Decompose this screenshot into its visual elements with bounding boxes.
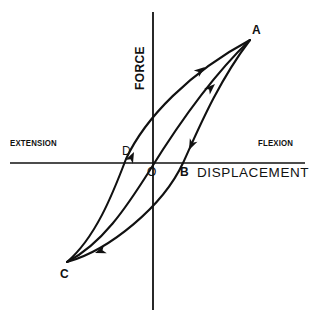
x-axis-title: DISPLACEMENT: [197, 166, 309, 180]
point-label-a: A: [252, 24, 261, 36]
force-displacement-diagram: FORCE DISPLACEMENT EXTENSION FLEXION A B…: [0, 0, 312, 322]
point-label-c: C: [60, 268, 69, 280]
x-axis-right-label: FLEXION: [258, 139, 293, 148]
y-axis-title: FORCE: [134, 46, 146, 90]
direction-arrow: [185, 138, 197, 152]
point-label-d: D: [122, 145, 131, 157]
x-axis-left-label: EXTENSION: [10, 139, 57, 148]
point-label-o: O: [147, 166, 156, 178]
point-label-b: B: [180, 166, 189, 178]
curve-loading-upper: [67, 40, 250, 262]
hysteresis-curves: [67, 40, 250, 262]
plot-canvas: [0, 0, 312, 322]
